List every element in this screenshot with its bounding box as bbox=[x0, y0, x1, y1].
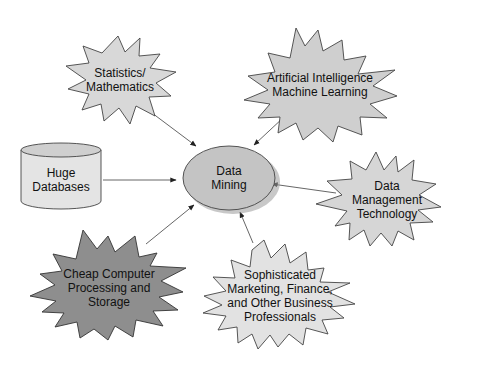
dmt-line-1: Data bbox=[352, 179, 422, 193]
business-label: Sophisticated Marketing, Finance, and Ot… bbox=[227, 268, 332, 324]
dmt-line-2: Management bbox=[352, 193, 422, 207]
statistics-line-2: Mathematics bbox=[86, 80, 154, 94]
cheap-line-2: Processing and bbox=[63, 281, 154, 295]
arrow-dmt bbox=[272, 184, 336, 193]
business-line-2: Marketing, Finance, bbox=[227, 282, 332, 296]
statistics-line-1: Statistics/ bbox=[86, 66, 154, 80]
databases-label: Huge Databases bbox=[32, 166, 89, 194]
statistics-label: Statistics/ Mathematics bbox=[86, 66, 154, 94]
business-line-3: and Other Business bbox=[227, 296, 332, 310]
ai-line-2: Machine Learning bbox=[267, 85, 373, 99]
business-line-4: Professionals bbox=[227, 310, 332, 324]
data-mining-line-1: Data bbox=[211, 164, 246, 178]
ai-label: Artificial Intelligence Machine Learning bbox=[267, 71, 373, 99]
data-mining-label: Data Mining bbox=[211, 164, 246, 192]
dmt-line-3: Technology bbox=[352, 207, 422, 221]
dmt-label: Data Management Technology bbox=[352, 179, 422, 221]
ai-line-1: Artificial Intelligence bbox=[267, 71, 373, 85]
databases-line-2: Databases bbox=[32, 180, 89, 194]
arrow-business bbox=[240, 212, 253, 243]
cheap-line-3: Storage bbox=[63, 295, 154, 309]
data-mining-line-2: Mining bbox=[211, 178, 246, 192]
arrow-cheap bbox=[146, 205, 194, 244]
business-line-1: Sophisticated bbox=[227, 268, 332, 282]
databases-line-1: Huge bbox=[32, 166, 89, 180]
cheap-line-1: Cheap Computer bbox=[63, 267, 154, 281]
cheap-label: Cheap Computer Processing and Storage bbox=[63, 267, 154, 309]
